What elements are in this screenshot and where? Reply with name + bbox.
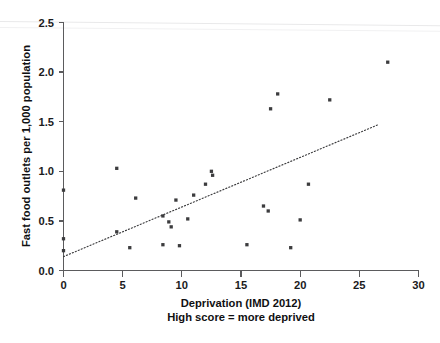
data-point	[276, 92, 279, 95]
y-tick-label: 1.5	[38, 116, 54, 128]
y-axis: 0.00.51.01.52.02.5	[38, 17, 63, 277]
y-tick-label: 2.5	[38, 17, 54, 29]
data-point	[134, 196, 137, 199]
x-axis-title: Deprivation (IMD 2012)	[181, 297, 302, 309]
x-tick-label: 10	[176, 279, 188, 291]
y-tick-label: 2.0	[38, 66, 54, 78]
x-tick-label: 5	[120, 279, 126, 291]
x-tick-label: 30	[412, 279, 424, 291]
data-point	[161, 214, 164, 217]
data-point	[204, 183, 207, 186]
data-point	[178, 244, 181, 247]
chart-canvas: 0.00.51.01.52.02.5 051015202530 Fast foo…	[0, 0, 440, 343]
x-axis-subtitle: High score = more deprived	[167, 311, 315, 323]
x-tick-label: 25	[353, 279, 365, 291]
y-tick-label: 0.0	[38, 265, 54, 277]
data-point	[62, 237, 65, 240]
data-point	[262, 204, 265, 207]
y-tick-label: 0.5	[38, 215, 54, 227]
x-tick-label: 15	[235, 279, 247, 291]
data-point	[299, 218, 302, 221]
scatter-plot-figure: 0.00.51.01.52.02.5 051015202530 Fast foo…	[0, 0, 440, 343]
data-point	[307, 183, 310, 186]
data-point	[186, 217, 189, 220]
data-point	[170, 225, 173, 228]
y-tick-labels: 0.00.51.01.52.02.5	[38, 17, 54, 277]
data-point	[210, 170, 213, 173]
data-point	[167, 220, 170, 223]
data-point	[386, 61, 389, 64]
x-tick-label: 20	[294, 279, 306, 291]
data-point	[174, 198, 177, 201]
data-point	[115, 167, 118, 170]
trend-line	[64, 125, 379, 257]
data-point	[211, 174, 214, 177]
data-point	[62, 188, 65, 191]
data-point	[62, 249, 65, 252]
y-tick-marks	[59, 23, 64, 271]
data-point	[328, 98, 331, 101]
x-axis: 051015202530	[60, 271, 424, 292]
x-tick-labels: 051015202530	[60, 279, 424, 291]
data-points	[62, 61, 390, 253]
x-tick-label: 0	[60, 279, 66, 291]
data-point	[267, 209, 270, 212]
data-point	[161, 243, 164, 246]
data-point	[289, 246, 292, 249]
y-axis-title: Fast food outlets per 1,000 population	[20, 45, 32, 247]
data-point	[115, 230, 118, 233]
data-point	[128, 246, 131, 249]
data-point	[192, 193, 195, 196]
x-tick-marks	[64, 271, 419, 277]
data-point	[245, 243, 248, 246]
y-tick-label: 1.0	[38, 165, 54, 177]
data-point	[269, 107, 272, 110]
